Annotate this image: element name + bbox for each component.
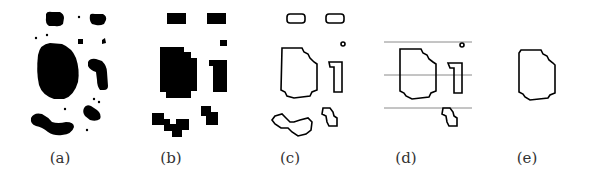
contour-large (281, 48, 317, 98)
contour-large (400, 49, 436, 99)
contour-bottom-left (272, 114, 312, 136)
block-bottom-left (152, 113, 189, 137)
blob-top-right (90, 14, 106, 26)
contour-large (519, 50, 555, 100)
panel-a-binary-image (31, 12, 108, 135)
panel-label-b: (b) (160, 149, 181, 167)
contour-bottom-right (322, 108, 337, 126)
blob-bottom-left (31, 114, 74, 136)
panel-label-c: (c) (280, 149, 300, 167)
panel-label-d: (d) (395, 149, 416, 167)
panel-d-reference-lines (384, 42, 472, 108)
panel-b-blocks (152, 13, 227, 137)
blob-right-column (88, 59, 108, 90)
panel-label-e: (e) (517, 149, 538, 167)
contour-column (448, 63, 462, 93)
contour-bottom-right (442, 108, 457, 126)
blob-top-left (46, 12, 64, 27)
panel-e-selected-contour (519, 50, 555, 100)
block-column (209, 60, 227, 92)
panel-d-contours (400, 43, 464, 126)
blob-large (37, 43, 78, 99)
block-bottom-right (201, 106, 218, 125)
panel-c-contours (272, 14, 345, 136)
contour-column (329, 62, 342, 92)
block-large (160, 47, 197, 98)
panel-label-a: (a) (50, 149, 71, 167)
blob-bottom-right (83, 105, 100, 120)
